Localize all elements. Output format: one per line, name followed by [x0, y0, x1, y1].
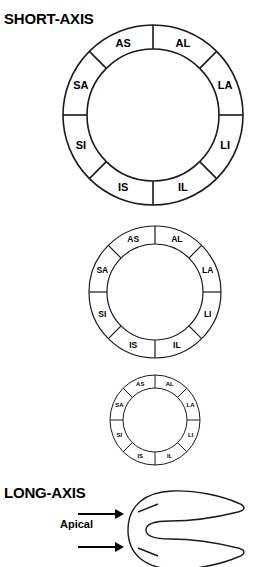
apical-arrow-head — [115, 542, 124, 552]
apical-arrow-head — [115, 509, 124, 519]
long-axis-ventricle — [128, 491, 244, 567]
apical-arrows — [78, 509, 124, 552]
ventricle-horseshoe-outline — [128, 491, 244, 567]
long-axis-diagram — [0, 0, 253, 567]
apical-label: Apical — [60, 518, 93, 530]
